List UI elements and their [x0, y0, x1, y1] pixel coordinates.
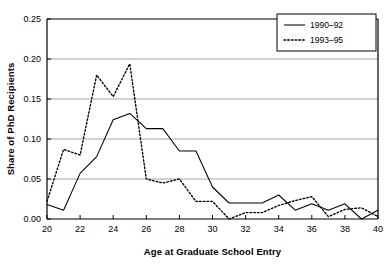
x-tick-label-26: 26 — [141, 224, 151, 234]
x-tick-label-20: 20 — [42, 224, 52, 234]
x-tick-label-30: 30 — [207, 224, 217, 234]
x-tick-label-40: 40 — [373, 224, 383, 234]
legend-label-1: 1993–95 — [310, 35, 343, 45]
chart-figure: 2022242628303234363840 0.000.050.100.150… — [0, 0, 391, 266]
x-tick-label-32: 32 — [241, 224, 251, 234]
x-axis-tick-labels: 2022242628303234363840 — [42, 224, 383, 234]
legend-label-0: 1990–92 — [310, 20, 343, 30]
x-tick-label-38: 38 — [340, 224, 350, 234]
y-tick-label-0.15: 0.15 — [23, 94, 41, 104]
x-tick-label-34: 34 — [274, 224, 284, 234]
x-axis-title: Age at Graduate School Entry — [144, 246, 282, 257]
x-tick-label-36: 36 — [307, 224, 317, 234]
y-tick-label-0.25: 0.25 — [23, 14, 41, 24]
x-tick-label-24: 24 — [108, 224, 118, 234]
y-tick-label-0.10: 0.10 — [23, 134, 41, 144]
y-axis-title: Share of PhD Recipients — [5, 63, 16, 176]
y-tick-label-0.20: 0.20 — [23, 54, 41, 64]
y-tick-label-0.05: 0.05 — [23, 174, 41, 184]
x-tick-label-28: 28 — [174, 224, 184, 234]
y-tick-label-0.00: 0.00 — [23, 214, 41, 224]
line-chart: 2022242628303234363840 0.000.050.100.150… — [0, 0, 391, 266]
y-axis-tick-labels: 0.000.050.100.150.200.25 — [23, 14, 41, 224]
x-tick-label-22: 22 — [75, 224, 85, 234]
legend: 1990–92 1993–95 — [277, 14, 376, 51]
